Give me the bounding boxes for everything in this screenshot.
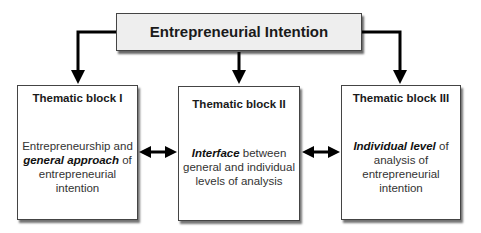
thematic-block-3: Thematic block III Individual level of a…	[341, 85, 461, 220]
block-title: Thematic block I	[18, 92, 137, 104]
double-arrow-block-2-3	[302, 146, 340, 158]
double-arrow-block-1-2	[139, 146, 177, 158]
thematic-block-2: Thematic block II Interface between gene…	[178, 86, 300, 221]
block-title: Thematic block II	[179, 98, 299, 110]
thematic-block-1: Thematic block I Entrepreneurship and ge…	[17, 85, 138, 220]
root-node: Entrepreneurial Intention	[116, 13, 362, 51]
block-title: Thematic block III	[342, 92, 460, 104]
root-label: Entrepreneurial Intention	[150, 23, 328, 40]
arrow-root-to-block-3	[362, 32, 400, 70]
block-description: Entrepreneurship and general approach of…	[18, 139, 137, 195]
arrow-root-to-block-1	[78, 32, 116, 70]
block-description: Individual level of analysis of entrepre…	[342, 139, 460, 195]
block-description: Interface between general and individual…	[179, 146, 299, 188]
